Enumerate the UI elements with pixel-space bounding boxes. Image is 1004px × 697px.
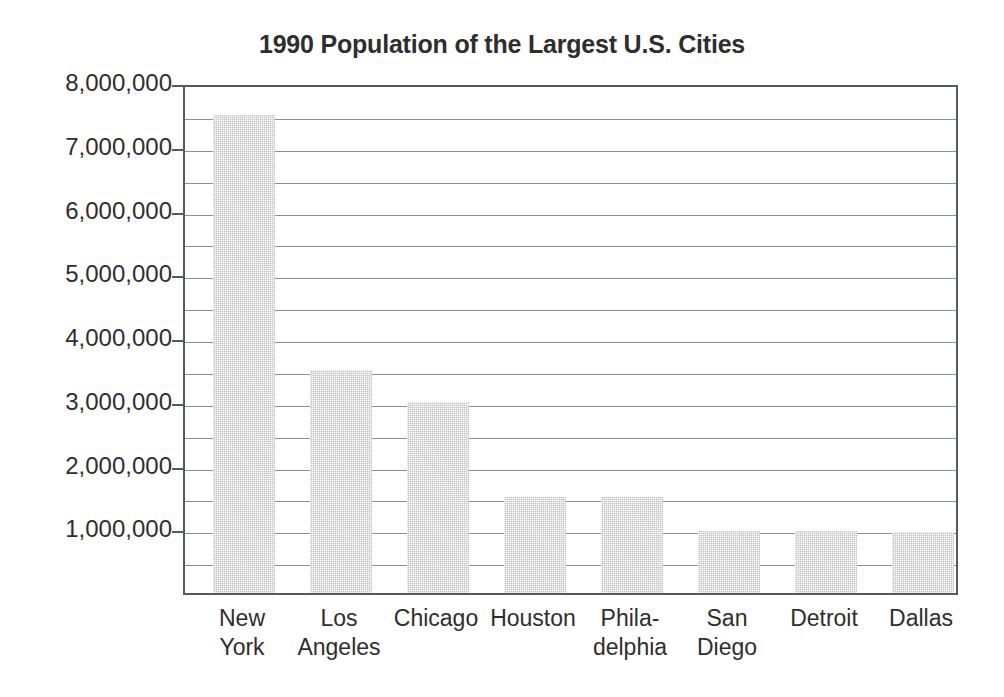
x-tick-label-line: San [707,605,748,631]
bar [213,115,275,593]
gridline [185,246,956,247]
bar [407,402,469,593]
gridline [185,151,956,152]
y-tick-label: 5,000,000 [22,260,172,288]
x-tick-label-line: Diego [657,633,797,662]
gridline [185,310,956,311]
x-tick-label: Dallas [851,604,991,633]
y-tick-label: 2,000,000 [22,452,172,480]
y-tick-label: 8,000,000 [22,69,172,97]
y-tick-label: 3,000,000 [22,388,172,416]
gridline [185,438,956,439]
plot-area [183,85,958,595]
bar [310,370,372,593]
y-tick-label: 6,000,000 [22,197,172,225]
bar [698,531,760,593]
bar [504,497,566,593]
gridline [185,501,956,502]
gridline [185,119,956,120]
gridline [185,374,956,375]
x-axis: NewYorkLosAngelesChicagoHoustonPhila-del… [183,604,958,684]
x-tick-label-line: Dallas [889,605,953,631]
bar [795,531,857,593]
x-tick-label-line: Los [320,605,357,631]
gridline [185,406,956,407]
y-tick-mark [172,531,183,533]
bar [892,532,954,593]
gridline [185,470,956,471]
y-tick-label: 4,000,000 [22,324,172,352]
bar-chart: 1990 Population of the Largest U.S. Citi… [0,0,1004,697]
y-tick-mark [172,149,183,151]
y-tick-mark [172,213,183,215]
y-tick-mark [172,468,183,470]
x-tick-label-line: New [219,605,265,631]
gridline [185,183,956,184]
gridline [185,215,956,216]
x-tick-label-line: Detroit [790,605,858,631]
bar [601,497,663,593]
y-tick-mark [172,340,183,342]
x-tick-label-line: Phila- [601,605,660,631]
y-tick-label: 1,000,000 [22,515,172,543]
x-tick-label-line: Angeles [269,633,409,662]
y-tick-mark [172,85,183,87]
y-tick-mark [172,276,183,278]
y-tick-mark [172,404,183,406]
y-axis: 8,000,0007,000,0006,000,0005,000,0004,00… [14,0,172,697]
gridline [185,278,956,279]
gridline [185,342,956,343]
y-tick-label: 7,000,000 [22,133,172,161]
